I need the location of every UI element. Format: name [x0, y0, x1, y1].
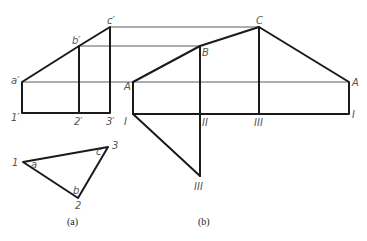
- label-III-top: III: [254, 117, 263, 128]
- development-view: [133, 27, 349, 176]
- label-3: 3: [112, 140, 118, 151]
- label-c-prime: c′: [107, 15, 115, 26]
- label-angle-c: c: [96, 146, 102, 157]
- label-1-prime: 1′: [11, 112, 20, 123]
- label-3-prime: 3′: [106, 116, 115, 127]
- front-view: [22, 27, 110, 113]
- caption-a: (a): [67, 216, 78, 228]
- label-a-prime: a′: [11, 75, 20, 86]
- development-diagram: c′ b′ a′ 1′ 2′ 3′ 1 3 2 a b c A B C A I …: [0, 0, 367, 241]
- label-angle-b: b: [73, 185, 79, 196]
- label-A-right: A: [351, 77, 359, 88]
- label-b-prime: b′: [72, 35, 81, 46]
- label-I-left: I: [124, 116, 127, 127]
- label-II: II: [202, 117, 208, 128]
- label-B: B: [202, 47, 209, 58]
- label-2: 2: [75, 200, 81, 211]
- label-C: C: [256, 15, 263, 26]
- label-1: 1: [12, 157, 18, 168]
- label-A-left: A: [123, 81, 131, 92]
- label-angle-a: a: [31, 159, 37, 170]
- label-2-prime: 2′: [74, 116, 83, 127]
- caption-b: (b): [198, 216, 210, 228]
- label-III-bottom: III: [194, 181, 203, 192]
- label-I-right: I: [352, 109, 355, 120]
